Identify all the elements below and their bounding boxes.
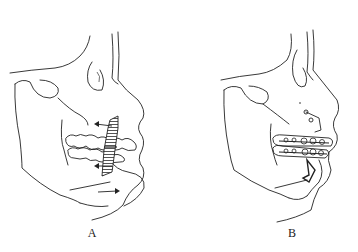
dentition-a — [66, 135, 136, 163]
panel-a: A — [0, 0, 179, 252]
dentition-with-brackets — [273, 135, 333, 158]
panel-label-b: B — [282, 226, 302, 241]
panel-label-a: A — [82, 226, 102, 241]
panel-b: B — [179, 0, 358, 252]
skull-diagram-b — [179, 0, 358, 252]
skull-diagram-a — [0, 0, 179, 252]
